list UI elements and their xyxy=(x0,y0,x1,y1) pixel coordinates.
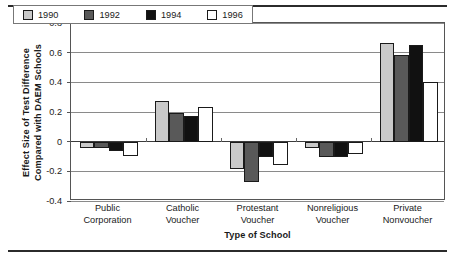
x-axis-tick-label-line-1: Protestant xyxy=(220,203,295,215)
legend-label: 1996 xyxy=(222,10,242,20)
bar-private-nonvoucher-1994 xyxy=(409,45,424,141)
x-axis-tick-label-line-2: Corporation xyxy=(70,215,145,227)
legend-label: 1994 xyxy=(161,10,181,20)
bar-public-corporation-1994 xyxy=(109,142,124,152)
x-axis-tick-label-public-corporation: PublicCorporation xyxy=(70,203,145,226)
x-axis-tick-label-nonreligious-voucher: NonreligiousVoucher xyxy=(295,203,370,226)
bar-catholic-voucher-1996 xyxy=(198,107,213,142)
figure-container: Effect Size of Test Difference Compared … xyxy=(0,0,455,270)
bar-nonreligious-voucher-1996 xyxy=(348,142,363,155)
bar-private-nonvoucher-1996 xyxy=(423,82,438,141)
plot-area: 0.80.60.40.20-0.2-0.4 xyxy=(70,22,445,200)
y-axis-tick-label: -0.4 xyxy=(2,197,62,206)
x-axis-tick-label-private-nonvoucher: PrivateNonvoucher xyxy=(370,203,445,226)
x-axis-tick-label-line-2: Nonvoucher xyxy=(370,215,445,227)
x-axis-title: Type of School xyxy=(70,230,445,240)
legend-swatch-icon xyxy=(84,10,94,20)
x-axis-tick-label-line-1: Nonreligious xyxy=(295,203,370,215)
bar-nonreligious-voucher-1994 xyxy=(334,142,349,158)
figure-bottom-rule xyxy=(8,250,447,252)
bar-protestant-voucher-1992 xyxy=(244,142,259,182)
y-axis-tick-label: -0.2 xyxy=(2,167,62,176)
x-axis-tick-label-line-2: Voucher xyxy=(220,215,295,227)
legend-item-1994[interactable]: 1994 xyxy=(146,10,181,20)
bar-catholic-voucher-1992 xyxy=(169,113,184,142)
y-axis-tick-mark xyxy=(67,171,71,172)
x-axis-tick-label-protestant-voucher: ProtestantVoucher xyxy=(220,203,295,226)
x-axis-tick-label-line-1: Public xyxy=(70,203,145,215)
x-axis-tick-label-line-1: Catholic xyxy=(145,203,220,215)
y-axis-tick-mark xyxy=(67,141,71,142)
bar-private-nonvoucher-1992 xyxy=(394,55,409,142)
legend-label: 1990 xyxy=(38,10,58,20)
y-axis-tick-mark xyxy=(67,52,71,53)
x-axis-tick-label-line-2: Voucher xyxy=(295,215,370,227)
bar-public-corporation-1990 xyxy=(80,142,95,148)
y-axis-tick-label: 0 xyxy=(2,138,62,147)
legend-swatch-icon xyxy=(146,10,156,20)
bar-catholic-voucher-1994 xyxy=(184,116,199,141)
y-axis-tick-mark xyxy=(67,201,71,202)
group-separator-tick xyxy=(371,138,372,142)
bar-nonreligious-voucher-1992 xyxy=(319,142,334,158)
legend-item-1990[interactable]: 1990 xyxy=(23,10,58,20)
legend-swatch-icon xyxy=(207,10,217,20)
x-axis-tick-label-catholic-voucher: CatholicVoucher xyxy=(145,203,220,226)
group-separator-tick xyxy=(221,138,222,142)
y-axis-tick-mark xyxy=(67,112,71,113)
legend-item-1992[interactable]: 1992 xyxy=(84,10,119,20)
y-axis-tick-label: 0.4 xyxy=(2,78,62,87)
bar-public-corporation-1996 xyxy=(123,142,138,156)
bar-protestant-voucher-1996 xyxy=(273,142,288,165)
legend-label: 1992 xyxy=(99,10,119,20)
bar-private-nonvoucher-1990 xyxy=(380,43,395,142)
legend-item-1996[interactable]: 1996 xyxy=(207,10,242,20)
y-axis-tick-mark xyxy=(67,82,71,83)
chart-legend: 1990199219941996 xyxy=(13,5,253,24)
y-axis-tick-label: 0.6 xyxy=(2,49,62,58)
bar-nonreligious-voucher-1990 xyxy=(305,142,320,149)
group-separator-tick xyxy=(146,138,147,142)
x-axis-tick-label-line-1: Private xyxy=(370,203,445,215)
group-separator-tick xyxy=(296,138,297,142)
x-axis-tick-label-line-2: Voucher xyxy=(145,215,220,227)
y-axis-tick-label: 0.2 xyxy=(2,108,62,117)
bar-protestant-voucher-1990 xyxy=(230,142,245,169)
bar-protestant-voucher-1994 xyxy=(259,142,274,158)
gridline xyxy=(71,201,444,202)
bar-catholic-voucher-1990 xyxy=(155,101,170,142)
bar-public-corporation-1992 xyxy=(94,142,109,149)
legend-swatch-icon xyxy=(23,10,33,20)
